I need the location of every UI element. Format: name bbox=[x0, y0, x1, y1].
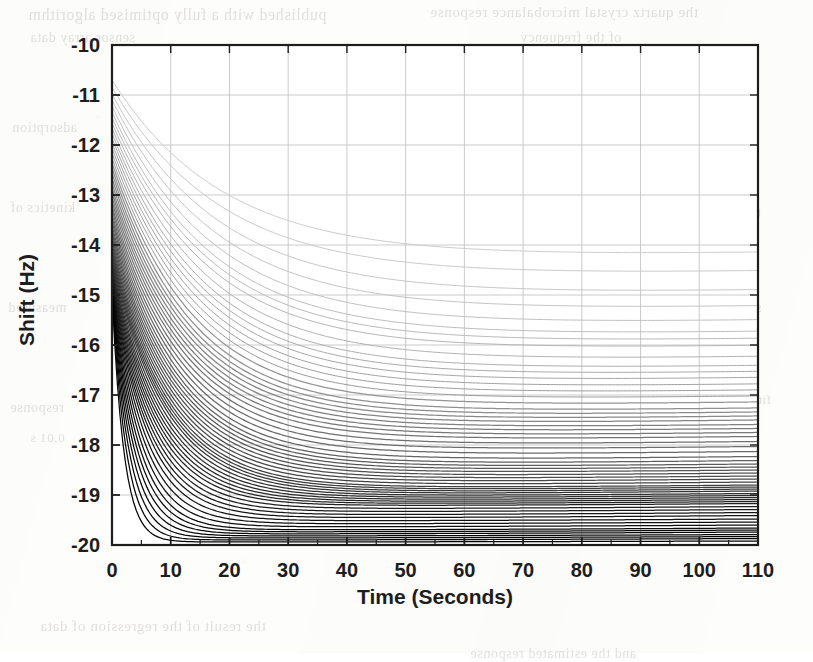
y-axis-label: Shift (Hz) bbox=[15, 254, 38, 346]
x-axis-label: Time (Seconds) bbox=[357, 585, 513, 608]
y-tick-label: -17 bbox=[71, 384, 100, 406]
y-tick-label: -10 bbox=[71, 34, 100, 56]
x-tick-label: 30 bbox=[277, 559, 299, 581]
y-tick-label: -14 bbox=[71, 234, 101, 256]
y-axis-tick-labels: -10-11-12-13-14-15-16-17-18-19-20 bbox=[71, 34, 101, 556]
x-tick-label: 10 bbox=[160, 559, 182, 581]
y-tick-label: -16 bbox=[71, 334, 100, 356]
x-tick-label: 110 bbox=[742, 559, 774, 581]
x-tick-label: 80 bbox=[571, 559, 593, 581]
x-tick-label: 90 bbox=[629, 559, 651, 581]
x-tick-label: 50 bbox=[395, 559, 417, 581]
x-tick-label: 20 bbox=[218, 559, 240, 581]
x-tick-label: 100 bbox=[683, 559, 716, 581]
x-axis-tick-labels: 0102030405060708090100110 bbox=[106, 559, 774, 581]
y-tick-label: -15 bbox=[71, 284, 100, 306]
y-tick-label: -13 bbox=[71, 184, 100, 206]
y-tick-label: -11 bbox=[72, 84, 100, 106]
y-tick-label: -20 bbox=[71, 534, 100, 556]
x-tick-label: 70 bbox=[512, 559, 534, 581]
x-tick-label: 0 bbox=[106, 559, 117, 581]
y-tick-label: -12 bbox=[71, 134, 100, 156]
x-tick-label: 60 bbox=[453, 559, 475, 581]
x-tick-label: 40 bbox=[336, 559, 358, 581]
y-tick-label: -19 bbox=[71, 484, 100, 506]
y-tick-label: -18 bbox=[71, 434, 100, 456]
